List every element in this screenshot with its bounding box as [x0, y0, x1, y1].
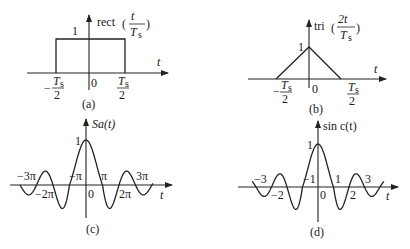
panel-d-sinc: 1 sin c(t) t 0 −3 −2 −1 1 2 3 (d): [238, 119, 398, 239]
tick-right-den: 2: [119, 88, 125, 102]
signal-figure: 1 rect ( t T s ) t 0 − T s 2 T s 2 (a) 1…: [0, 0, 410, 249]
tick-1: 1: [335, 172, 341, 186]
t-axis-label: t: [160, 188, 164, 202]
panel-c-sa: 1 Sa(t) t 0 −3π −2π −π π 2π 3π (c): [10, 117, 172, 236]
origin-label: 0: [320, 188, 326, 202]
panel-a-rect: 1 rect ( t T s ) t 0 − T s 2 T s 2 (a): [27, 9, 168, 111]
panel-b-tri: 1 tri ( 2t T s ) t 0 − T s 2 T s 2 (b): [248, 12, 386, 116]
origin-label: 0: [312, 82, 318, 96]
arg-numerator: t: [131, 9, 135, 23]
amplitude-label: 1: [307, 138, 313, 152]
caption-b: (b): [309, 102, 323, 116]
tick-minus-2: −2: [271, 188, 284, 202]
arg-numerator: 2t: [338, 12, 348, 26]
paren-left: (: [122, 17, 126, 31]
tick-right-sub: s: [125, 78, 129, 89]
amplitude-label: 1: [298, 40, 304, 54]
amplitude-label: 1: [75, 134, 81, 148]
t-axis-label: t: [374, 62, 378, 76]
tick-minus-2pi: −2π: [35, 187, 54, 201]
function-label: Sa(t): [92, 117, 115, 131]
amplitude-label: 1: [72, 24, 78, 38]
tick-minus-pi: −π: [69, 169, 82, 183]
tick-minus-3pi: −3π: [17, 169, 36, 183]
function-name: rect: [97, 15, 116, 29]
tick-minus-1: −1: [303, 172, 316, 186]
caption-a: (a): [82, 97, 95, 111]
origin-label: 0: [88, 187, 94, 201]
arg-denominator-sub: s: [348, 32, 352, 43]
tick-3: 3: [365, 172, 371, 186]
caption-d: (d): [310, 225, 324, 239]
paren-right: ): [356, 21, 360, 35]
t-axis-label: t: [386, 189, 390, 203]
paren-left: (: [331, 21, 335, 35]
tick-left-den: 2: [282, 92, 288, 106]
tick-left-den: 2: [54, 88, 60, 102]
tick-left-sub: s: [288, 82, 292, 93]
tick-2: 2: [350, 188, 356, 202]
function-name: tri: [314, 19, 325, 33]
tick-right-sub: s: [355, 84, 359, 95]
tick-2pi: 2π: [119, 187, 131, 201]
tick-left-sign: −: [273, 84, 280, 98]
tick-right-den: 2: [349, 94, 355, 108]
tick-3pi: 3π: [136, 169, 148, 183]
tick-left-sign: −: [44, 81, 51, 95]
tick-pi: π: [101, 169, 107, 183]
arg-denominator: T: [340, 28, 348, 42]
paren-right: ): [146, 17, 150, 31]
t-axis-label: t: [157, 55, 161, 69]
arg-denominator-sub: s: [138, 29, 142, 40]
function-label: sin c(t): [323, 119, 357, 133]
caption-c: (c): [86, 222, 99, 236]
arg-denominator: T: [130, 25, 138, 39]
rect-pulse-curve: [56, 39, 125, 73]
tick-minus-3: −3: [254, 172, 267, 186]
tick-left-sub: s: [60, 78, 64, 89]
origin-label: 0: [91, 76, 97, 90]
